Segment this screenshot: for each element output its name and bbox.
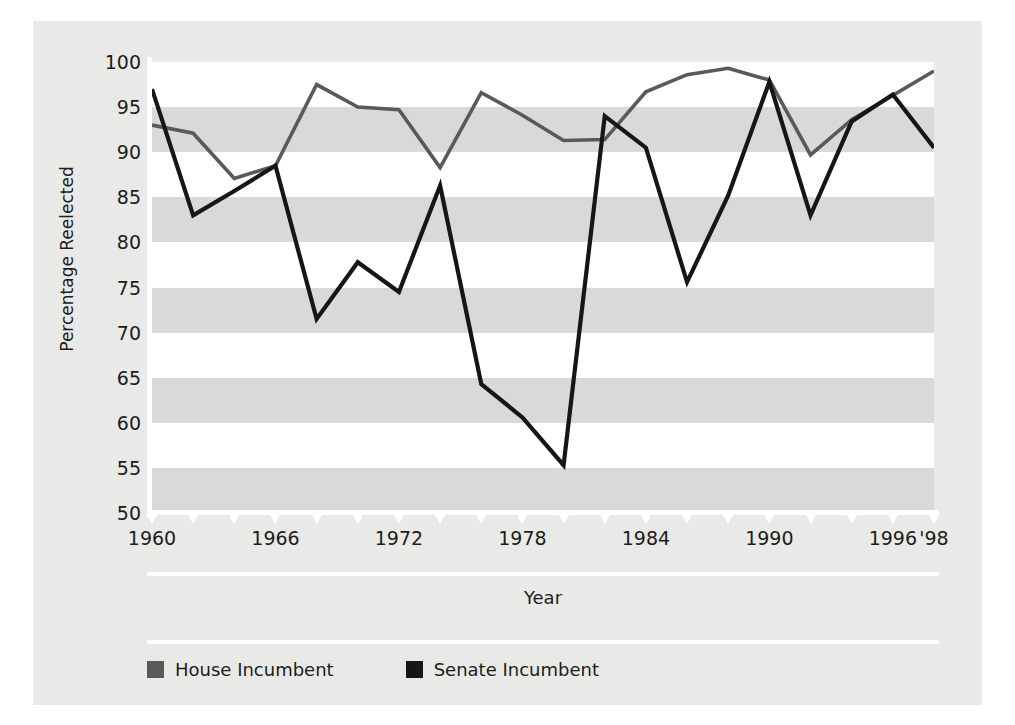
x-axis-ticks: 1960196619721978198419901996'98 bbox=[33, 513, 982, 531]
legend-swatch-icon bbox=[147, 661, 164, 678]
y-axis-line bbox=[147, 57, 152, 518]
x-label-divider bbox=[147, 572, 939, 576]
x-tick-mark bbox=[722, 513, 734, 524]
plot-area bbox=[152, 62, 934, 513]
data-lines bbox=[152, 62, 934, 513]
legend-swatch-icon bbox=[406, 661, 423, 678]
chart-figure: 10095908580757065605550 Percentage Reele… bbox=[33, 21, 982, 705]
legend-label: House Incumbent bbox=[175, 659, 334, 680]
legend-item: Senate Incumbent bbox=[406, 659, 599, 680]
x-tick-mark bbox=[269, 513, 281, 524]
x-tick-mark bbox=[928, 513, 940, 524]
series-line-senate bbox=[152, 82, 934, 465]
x-tick-mark bbox=[763, 513, 775, 524]
x-tick-label: 1984 bbox=[622, 529, 670, 548]
x-tick-mark bbox=[352, 513, 364, 524]
x-tick-mark bbox=[187, 513, 199, 524]
x-tick-mark bbox=[434, 513, 446, 524]
x-tick-mark bbox=[640, 513, 652, 524]
y-tick-label: 65 bbox=[67, 369, 141, 388]
x-tick-label: 1996 bbox=[869, 529, 917, 548]
x-axis-label: Year bbox=[147, 587, 939, 608]
y-tick-label: 60 bbox=[67, 414, 141, 433]
y-tick-label: 80 bbox=[67, 233, 141, 252]
x-tick-mark bbox=[805, 513, 817, 524]
x-tick-mark bbox=[393, 513, 405, 524]
x-tick-label: 1978 bbox=[498, 529, 546, 548]
x-tick-mark bbox=[228, 513, 240, 524]
y-tick-label: 85 bbox=[67, 188, 141, 207]
series-line-house bbox=[152, 68, 934, 178]
chart-legend: House IncumbentSenate Incumbent bbox=[147, 659, 671, 680]
x-tick-mark bbox=[846, 513, 858, 524]
x-tick-mark bbox=[887, 513, 899, 524]
x-tick-mark bbox=[681, 513, 693, 524]
y-tick-label: 100 bbox=[67, 53, 141, 72]
y-axis-label: Percentage Reelected bbox=[57, 129, 77, 389]
y-tick-label: 75 bbox=[67, 279, 141, 298]
x-tick-label: 1972 bbox=[375, 529, 423, 548]
x-tick-label: 1960 bbox=[128, 529, 176, 548]
x-tick-label: 1966 bbox=[251, 529, 299, 548]
y-axis-tick-labels: 10095908580757065605550 bbox=[33, 21, 141, 555]
x-tick-mark bbox=[558, 513, 570, 524]
x-tick-mark bbox=[516, 513, 528, 524]
legend-label: Senate Incumbent bbox=[434, 659, 599, 680]
x-tick-label: '98 bbox=[919, 529, 948, 548]
y-tick-label: 90 bbox=[67, 143, 141, 162]
x-tick-mark bbox=[311, 513, 323, 524]
x-tick-mark bbox=[599, 513, 611, 524]
y-tick-label: 70 bbox=[67, 324, 141, 343]
x-tick-label: 1990 bbox=[745, 529, 793, 548]
y-tick-label: 55 bbox=[67, 459, 141, 478]
y-tick-label: 95 bbox=[67, 98, 141, 117]
legend-item: House Incumbent bbox=[147, 659, 334, 680]
x-tick-mark bbox=[475, 513, 487, 524]
legend-divider bbox=[147, 640, 939, 644]
x-tick-mark bbox=[146, 513, 158, 524]
